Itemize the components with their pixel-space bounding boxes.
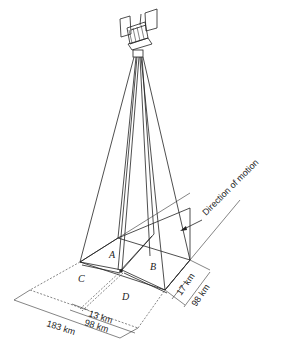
direction-of-motion: Direction of motion bbox=[118, 157, 260, 290]
area-label-a: A bbox=[108, 249, 116, 260]
satellite-icon bbox=[120, 9, 157, 57]
dim-183-km: 183 km bbox=[45, 318, 76, 337]
direction-label: Direction of motion bbox=[200, 157, 260, 217]
area-label-d: D bbox=[121, 291, 130, 302]
bottom-dimensions: 13 km 98 km 183 km bbox=[14, 290, 138, 338]
area-label-b: B bbox=[150, 261, 156, 272]
area-label-c: C bbox=[78, 273, 85, 284]
satellite-footprint-diagram: Direction of motion A B C D 17 km 98 km … bbox=[0, 0, 282, 358]
ground-footprint bbox=[30, 208, 190, 328]
right-dimensions: 17 km 98 km bbox=[165, 260, 212, 308]
